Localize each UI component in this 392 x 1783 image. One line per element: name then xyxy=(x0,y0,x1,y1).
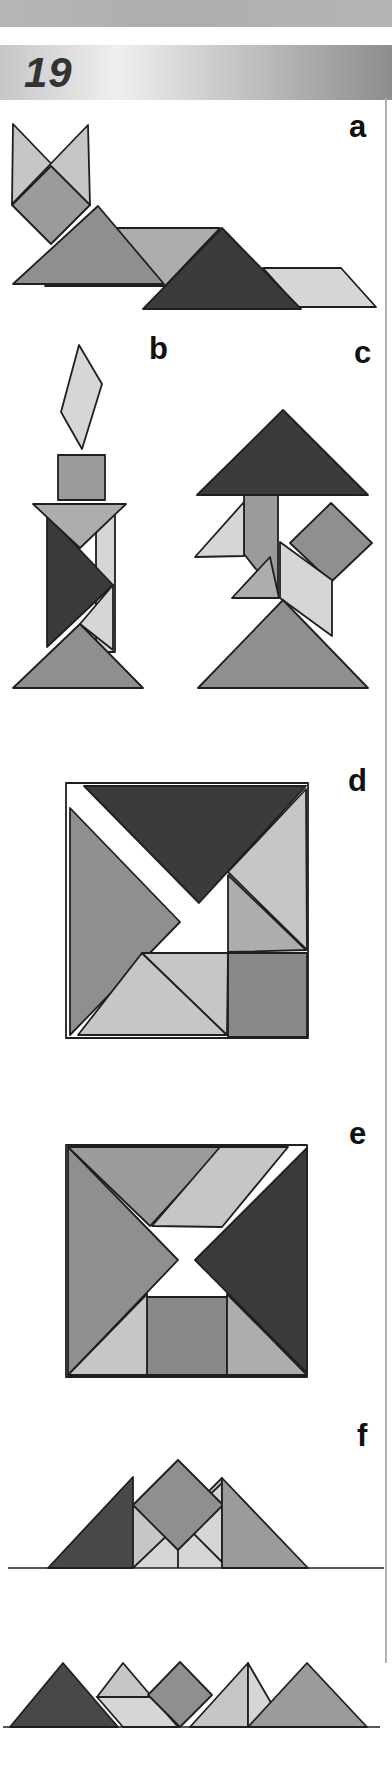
figure-a-cat xyxy=(12,124,376,309)
figure-b-candle xyxy=(13,345,143,688)
piece-right-triangle xyxy=(222,1478,308,1568)
figure-f-mountain-range-1 xyxy=(8,1460,384,1568)
piece-left-dark-triangle xyxy=(48,1477,133,1568)
piece-foot-triangle xyxy=(198,600,368,688)
puzzle-book-page: 19 a b c d e f xyxy=(0,0,392,1783)
piece-peak2-small-triangle xyxy=(97,1663,152,1697)
piece-crown-dark-triangle xyxy=(197,410,368,495)
figure-d-square xyxy=(66,783,308,1038)
piece-flame-diamond xyxy=(61,345,102,449)
tangram-figures-canvas xyxy=(0,0,392,1783)
figure-e-square xyxy=(66,1145,307,1377)
piece-base-triangle xyxy=(13,624,143,688)
piece-left-small-triangle xyxy=(195,502,244,557)
figure-c-fir-tree xyxy=(195,410,372,688)
piece-corner-square xyxy=(228,953,307,1037)
figure-f-mountain-range-2 xyxy=(3,1662,380,1727)
piece-bottom-square xyxy=(147,1297,227,1375)
piece-candle-square xyxy=(58,455,105,500)
